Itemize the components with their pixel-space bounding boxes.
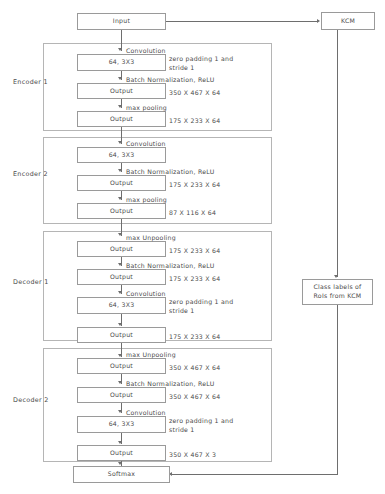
decoder2-output3-box: Output <box>77 445 166 461</box>
decoder1-output3-label: Output <box>110 331 133 340</box>
stage-label-decoder-2: Decoder 2 <box>13 396 49 404</box>
encoder1-output2-box: Output <box>77 111 166 127</box>
op-label-encoder1-conv: Convolution <box>126 46 166 55</box>
side-label-decoder2-conv: zero padding 1 and stride 1 <box>169 416 253 435</box>
encoder1-output2-label: Output <box>110 115 133 124</box>
softmax-label: Softmax <box>108 470 135 479</box>
encoder1-conv-box: 64, 3X3 <box>77 54 166 71</box>
arrowhead-encoder2-to-decoder1 <box>118 233 122 236</box>
arrowhead-decoder1-out2-to-conv <box>118 291 122 294</box>
op-label-encoder2-conv: Convolution <box>126 139 166 148</box>
decoder1-output2-label: Output <box>110 273 133 282</box>
flowchart-canvas: Input KCM Class labels of RoIs from KCM … <box>0 0 385 494</box>
arrowhead-decoder1-out1-to-out2 <box>118 263 122 266</box>
op-label-decoder1-unpool: max Unpooling <box>126 233 176 242</box>
side-label-decoder1-out1: 175 X 233 X 64 <box>169 246 220 255</box>
side-label-decoder1-out3: 175 X 233 X 64 <box>169 332 220 341</box>
arrowhead-decoder2-conv-to-out3 <box>118 441 122 444</box>
op-label-decoder2-bn: Batch Normalization, ReLU <box>126 379 214 388</box>
encoder1-output1-box: Output <box>77 83 166 99</box>
input-label: Input <box>113 17 130 26</box>
encoder2-output2-box: Output <box>77 203 166 219</box>
arrowhead-encoder1-out1-to-out2 <box>118 105 122 108</box>
stage-label-encoder-1: Encoder 1 <box>13 78 48 86</box>
decoder2-output3-label: Output <box>110 449 133 458</box>
decoder1-conv-label: 64, 3X3 <box>109 301 135 310</box>
arrowhead-kcm-to-classlabels <box>334 275 338 278</box>
side-label-decoder1-conv: zero padding 1 and stride 1 <box>169 297 253 316</box>
arrowhead-decoder2-to-softmax <box>118 462 122 465</box>
arrowhead-encoder1-conv-to-out1 <box>118 77 122 80</box>
encoder1-conv-label: 64, 3X3 <box>109 58 135 67</box>
decoder2-conv-label: 64, 3X3 <box>109 420 135 429</box>
side-label-decoder2-out3: 350 X 467 X 3 <box>169 450 216 459</box>
arrowhead-encoder2-conv-to-out1 <box>118 169 122 172</box>
side-label-encoder1-out1: 350 X 467 X 64 <box>169 88 220 97</box>
stage-label-decoder-1: Decoder 1 <box>13 278 49 286</box>
encoder2-conv-label: 64, 3X3 <box>109 151 135 160</box>
decoder2-conv-box: 64, 3X3 <box>77 416 166 433</box>
op-label-decoder1-conv: Convolution <box>126 289 166 298</box>
side-label-decoder2-out1: 350 X 467 X 64 <box>169 363 220 372</box>
side-label-encoder1-conv: zero padding 1 and stride 1 <box>169 54 253 73</box>
decoder2-output1-label: Output <box>110 362 133 371</box>
arrowhead-decoder1-to-decoder2 <box>118 354 122 357</box>
encoder2-output1-label: Output <box>110 179 133 188</box>
arrowhead-decoder2-out2-to-conv <box>118 410 122 413</box>
decoder2-output2-box: Output <box>77 387 166 403</box>
op-label-encoder2-pool: max pooling <box>126 195 167 204</box>
encoder1-output1-label: Output <box>110 87 133 96</box>
side-label-decoder2-out2: 350 X 467 X 64 <box>169 392 220 401</box>
decoder2-output1-box: Output <box>77 358 166 374</box>
encoder2-output2-label: Output <box>110 207 133 216</box>
stage-label-encoder-2: Encoder 2 <box>13 170 48 178</box>
class-labels-label: Class labels of RoIs from KCM <box>306 283 369 301</box>
class-labels-node: Class labels of RoIs from KCM <box>302 279 373 305</box>
op-label-decoder2-conv: Convolution <box>126 408 166 417</box>
kcm-label: KCM <box>341 17 355 26</box>
encoder2-conv-box: 64, 3X3 <box>77 147 166 163</box>
decoder1-output1-label: Output <box>110 245 133 254</box>
connector-kcm-to-classlabels <box>337 30 338 277</box>
arrowhead-input-to-kcm <box>317 19 320 23</box>
arrowhead-encoder2-out1-to-out2 <box>118 197 122 200</box>
side-label-decoder1-out2: 175 X 233 X 64 <box>169 274 220 283</box>
connector-classlabels-to-softmax <box>172 474 338 475</box>
side-label-encoder2-out1: 175 X 233 X 64 <box>169 180 220 189</box>
connector-input-to-kcm <box>166 21 318 22</box>
kcm-node: KCM <box>321 12 375 30</box>
decoder1-output3-box: Output <box>77 327 166 343</box>
decoder1-conv-box: 64, 3X3 <box>77 297 166 314</box>
op-label-decoder1-bn: Batch Normalization, ReLU <box>126 261 214 270</box>
arrowhead-decoder1-conv-to-out3 <box>118 323 122 326</box>
op-label-encoder2-bn: Batch Normalization, ReLU <box>126 167 214 176</box>
softmax-node: Softmax <box>73 466 170 483</box>
decoder1-output1-box: Output <box>77 241 166 257</box>
connector-classlabels-down <box>337 305 338 475</box>
arrowhead-decoder2-out1-to-out2 <box>118 381 122 384</box>
op-label-decoder2-unpool: max Unpooling <box>126 350 176 359</box>
decoder1-output2-box: Output <box>77 269 166 285</box>
encoder2-output1-box: Output <box>77 175 166 191</box>
decoder2-output2-label: Output <box>110 391 133 400</box>
side-label-encoder2-out2: 87 X 116 X 64 <box>169 208 216 217</box>
arrowhead-input-to-encoder1 <box>118 48 122 51</box>
op-label-encoder1-pool: max pooling <box>126 103 167 112</box>
arrowhead-encoder1-to-encoder2 <box>118 141 122 144</box>
input-node: Input <box>77 13 166 30</box>
side-label-encoder1-out2: 175 X 233 X 64 <box>169 116 220 125</box>
op-label-encoder1-bn: Batch Normalization, ReLU <box>126 75 214 84</box>
